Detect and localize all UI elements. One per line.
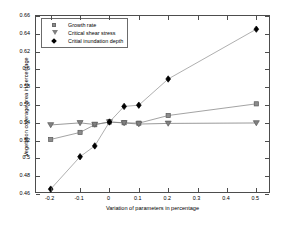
- marker-diamond: [136, 102, 141, 108]
- x-tick-mark: [109, 188, 110, 192]
- y-tick-mark: [36, 16, 40, 17]
- y-tick-mark: [36, 176, 40, 177]
- figure-canvas: Vegetation coverage area in percentage V…: [0, 0, 287, 229]
- y-tick-label: 0.54: [0, 119, 30, 125]
- y-tick-mark: [36, 52, 40, 53]
- y-tick-mark: [36, 69, 40, 70]
- y-tick-label: 0.5: [0, 154, 30, 160]
- marker-square: [49, 137, 53, 141]
- plot-area: Growth rate Critical shear stress Critia…: [35, 15, 270, 193]
- x-tick-label: -0.2: [45, 195, 54, 201]
- y-tick-mark: [265, 158, 269, 159]
- legend-item-critical-shear-stress: Critical shear stress: [44, 29, 123, 37]
- marker-square: [166, 113, 170, 117]
- x-axis-title: Variation of parameters in percentage: [35, 205, 270, 211]
- x-tick-mark: [256, 16, 257, 20]
- legend-item-growth-rate: Growth rate: [44, 21, 123, 29]
- legend-marker-square-icon: [44, 21, 66, 29]
- legend-label: Critial inundation depth: [66, 38, 123, 44]
- y-tick-label: 0.64: [0, 30, 30, 36]
- x-tick-mark: [139, 16, 140, 20]
- x-tick-label: 0.2: [163, 195, 171, 201]
- marker-diamond: [166, 76, 171, 82]
- y-tick-mark: [265, 52, 269, 53]
- x-tick-mark: [168, 188, 169, 192]
- y-tick-mark: [36, 141, 40, 142]
- x-tick-mark: [51, 16, 52, 20]
- x-tick-mark: [256, 188, 257, 192]
- y-tick-mark: [36, 123, 40, 124]
- legend-label: Critical shear stress: [66, 30, 115, 36]
- y-tick-mark: [265, 105, 269, 106]
- y-tick-label: 0.56: [0, 101, 30, 107]
- marker-diamond: [254, 26, 259, 32]
- y-tick-label: 0.66: [0, 12, 30, 18]
- y-tick-mark: [36, 87, 40, 88]
- x-tick-mark: [227, 16, 228, 20]
- legend-marker-triangle-down-icon: [44, 29, 66, 37]
- x-tick-mark: [109, 16, 110, 20]
- x-tick-mark: [139, 188, 140, 192]
- y-tick-mark: [265, 16, 269, 17]
- y-tick-mark: [36, 34, 40, 35]
- x-tick-label: -0.1: [74, 195, 83, 201]
- legend-marker-diamond-icon: [44, 37, 66, 45]
- marker-square: [254, 102, 258, 106]
- legend-item-critical-inundation-depth: Critial inundation depth: [44, 37, 123, 45]
- y-tick-label: 0.52: [0, 137, 30, 143]
- y-tick-mark: [265, 69, 269, 70]
- x-tick-mark: [198, 188, 199, 192]
- y-tick-label: 0.62: [0, 48, 30, 54]
- x-tick-label: 0.5: [252, 195, 260, 201]
- chart-legend: Growth rate Critical shear stress Critia…: [41, 18, 128, 48]
- y-tick-mark: [265, 141, 269, 142]
- x-tick-mark: [198, 16, 199, 20]
- x-tick-label: 0.1: [134, 195, 142, 201]
- y-tick-label: 0.48: [0, 172, 30, 178]
- legend-label: Growth rate: [66, 22, 96, 28]
- y-tick-mark: [36, 158, 40, 159]
- x-tick-mark: [80, 188, 81, 192]
- x-tick-label: 0.3: [193, 195, 201, 201]
- y-tick-mark: [265, 176, 269, 177]
- marker-square: [78, 130, 82, 134]
- y-tick-mark: [265, 87, 269, 88]
- x-tick-mark: [227, 188, 228, 192]
- y-tick-label: 0.58: [0, 83, 30, 89]
- y-tick-label: 0.6: [0, 65, 30, 71]
- x-tick-label: 0: [107, 195, 110, 201]
- series-line-2: [51, 29, 257, 189]
- y-tick-mark: [265, 34, 269, 35]
- y-tick-mark: [36, 194, 40, 195]
- y-tick-label: 0.46: [0, 190, 30, 196]
- x-tick-mark: [168, 16, 169, 20]
- y-tick-mark: [265, 123, 269, 124]
- y-tick-mark: [36, 105, 40, 106]
- x-tick-label: 0.4: [222, 195, 230, 201]
- x-tick-mark: [80, 16, 81, 20]
- y-tick-mark: [265, 194, 269, 195]
- x-tick-mark: [51, 188, 52, 192]
